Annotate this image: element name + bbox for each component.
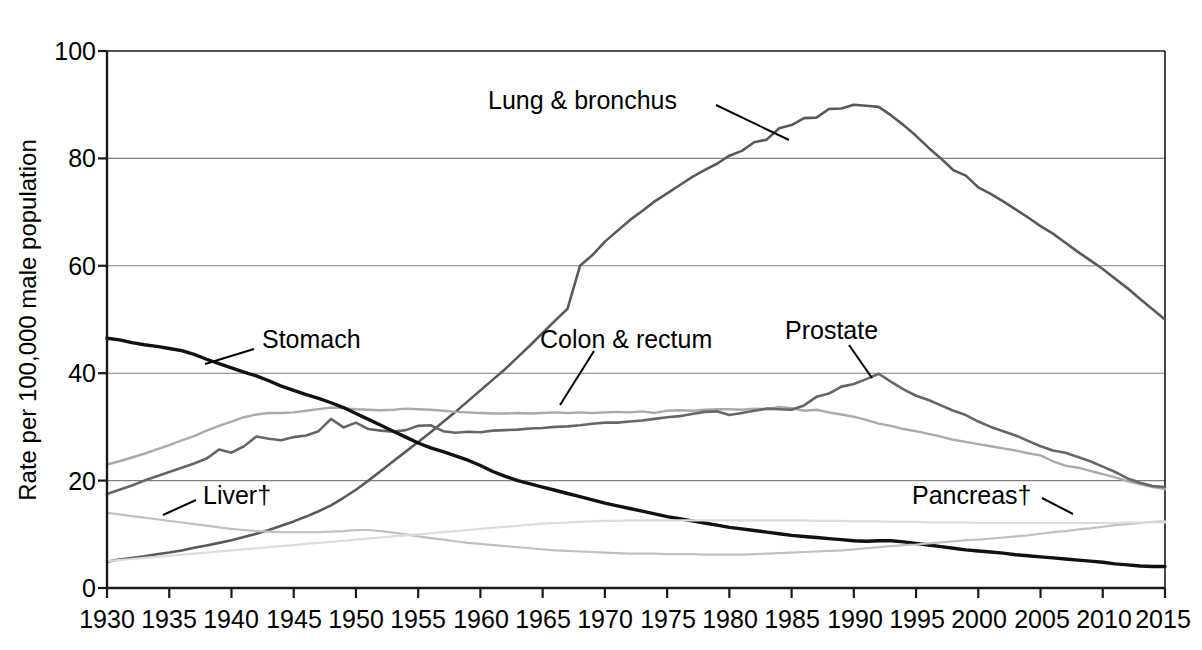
y-tick-label-80: 80 [68,144,96,172]
x-tick-label-1975: 1975 [640,605,696,633]
x-tick-label-1980: 1980 [702,605,758,633]
x-tick-label-2005: 2005 [1014,605,1070,633]
liver-label: Liver† [203,481,271,509]
y-tick-label-100: 100 [54,37,96,65]
x-tick-label-1970: 1970 [577,605,633,633]
x-tick-label-2000: 2000 [951,605,1007,633]
x-axis-ticks [107,588,1165,598]
prostate-label: Prostate [785,316,878,344]
x-tick-label-1965: 1965 [515,605,571,633]
y-tick-label-60: 60 [68,252,96,280]
x-tick-label-2015: 2015 [1135,605,1191,633]
lung-bronchus-label: Lung & bronchus [488,86,677,114]
y-axis-title: Rate per 100,000 male population [14,139,41,501]
x-tick-label-2010: 2010 [1076,605,1132,633]
stomach-label: Stomach [262,325,361,353]
cancer-death-rate-line-chart: 100 80 60 40 20 0 1930 1935 1940 1945 19… [0,0,1202,650]
x-tick-label-1985: 1985 [764,605,820,633]
y-axis-tick-labels: 100 80 60 40 20 0 [54,37,96,602]
y-tick-label-20: 20 [68,467,96,495]
x-tick-label-1940: 1940 [203,605,259,633]
x-axis-tick-labels: 1930 1935 1940 1945 1950 1955 1960 1965 … [79,605,1191,633]
pancreas-label: Pancreas† [912,481,1032,509]
x-tick-label-1990: 1990 [827,605,883,633]
x-tick-label-1995: 1995 [889,605,945,633]
x-tick-label-1935: 1935 [141,605,197,633]
x-tick-label-1950: 1950 [328,605,384,633]
colon-rectum-label: Colon & rectum [540,325,712,353]
y-tick-label-40: 40 [68,359,96,387]
chart-canvas: 100 80 60 40 20 0 1930 1935 1940 1945 19… [0,0,1202,650]
x-tick-label-1945: 1945 [266,605,322,633]
x-tick-label-1960: 1960 [453,605,509,633]
y-tick-label-0: 0 [82,574,96,602]
x-tick-label-1955: 1955 [390,605,446,633]
y-axis-ticks [98,51,107,588]
x-tick-label-1930: 1930 [79,605,135,633]
